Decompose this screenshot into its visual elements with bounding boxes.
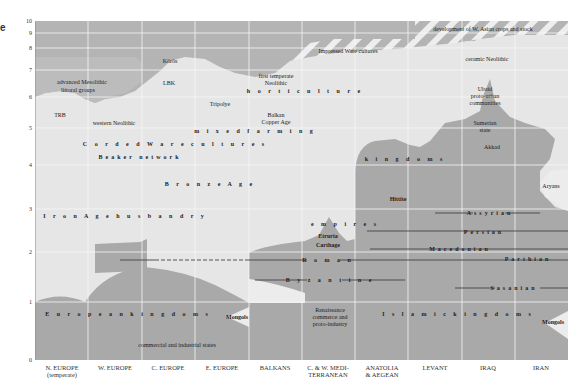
diagram-label: Neolithic: [265, 80, 287, 87]
region-column-label: IRAN: [533, 364, 549, 371]
region-name: N. EUROPE: [45, 364, 78, 371]
diagram-label: state: [480, 127, 491, 134]
region-name: C. EUROPE: [152, 364, 185, 371]
diagram-label: western Neolithic: [93, 120, 136, 127]
y-tick: 3: [22, 206, 32, 212]
diagram-label: Copper Age: [262, 119, 291, 126]
region-column-label: ANATOLIA& AEGEAN: [365, 364, 398, 378]
diagram-label: Hittite: [390, 196, 407, 203]
diagram-label: commerce and: [312, 314, 347, 321]
y-tick: 7: [22, 67, 32, 73]
diagram-label: littoral groups: [61, 87, 95, 94]
diagram-label: Carthage: [316, 242, 340, 249]
y-tick: 2: [22, 249, 32, 255]
diagram-label: communities: [470, 100, 501, 107]
region-name: BALKANS: [260, 364, 291, 371]
region-name: E. EUROPE: [206, 364, 239, 371]
y-tick: 5: [22, 125, 32, 131]
region-name: LEVANT: [422, 364, 447, 371]
diagram-label: advanced Mesolithic: [57, 79, 107, 86]
diagram-label: I r o n A g e h u s b a n d r y: [43, 213, 207, 220]
region-name: IRAN: [533, 364, 549, 371]
diagram-label: E u r o p e a n k i n g d o m s: [45, 311, 211, 318]
diagram-label: Macedonian: [429, 246, 491, 253]
diagram-label: first temperate: [259, 73, 294, 80]
region-column-label: C. & W. MEDI-TERRANEAN: [307, 364, 349, 378]
diagram-label: R o m a n: [302, 257, 354, 264]
diagram-label: proto-urban: [471, 93, 499, 100]
region-column-label: W. EUROPE: [98, 364, 132, 371]
y-tick: 8: [22, 45, 32, 51]
diagram-label: Assyrian: [467, 210, 514, 217]
diagram-label: development of W. Asian crops and stock: [433, 26, 532, 33]
diagram-label: Beaker network: [98, 154, 181, 161]
region-column-label: IRAQ: [480, 364, 496, 371]
diagram-label: TRB: [54, 112, 66, 119]
diagram-label: B y z a n t i n e: [286, 277, 375, 284]
diagram-label: Renaissance: [315, 307, 345, 314]
diagram-label: commercial and industrial states: [138, 342, 215, 349]
region-subname: & AEGEAN: [365, 371, 398, 378]
y-tick: 4: [22, 162, 32, 168]
y-tick: 1: [22, 299, 32, 305]
diagram-label: LBK: [163, 80, 175, 87]
region-column-label: C. EUROPE: [152, 364, 185, 371]
region-subname: TERRANEAN: [307, 371, 349, 378]
diagram-label: Impressed Ware cultures: [318, 48, 377, 55]
region-name: W. EUROPE: [98, 364, 132, 371]
diagram-label: k i n g d o m s: [365, 156, 446, 163]
diagram-label: Aryans: [542, 183, 559, 190]
chronology-diagram: [35, 21, 568, 360]
diagram-label: Akkad: [484, 144, 500, 151]
figure-letter: e: [0, 22, 6, 33]
y-tick: 6: [22, 94, 32, 100]
diagram-label: Mongols: [542, 319, 564, 326]
region-column-label: LEVANT: [422, 364, 447, 371]
diagram-label: Körös: [163, 58, 178, 65]
diagram-label: B r o n z e A g e: [165, 181, 256, 188]
diagram-label: h o r t i c u l t u r e: [247, 88, 363, 95]
region-column-label: BALKANS: [260, 364, 291, 371]
region-column-label: E. EUROPE: [206, 364, 239, 371]
diagram-label: C o r d e d W a r e c u l t u r e s: [83, 141, 267, 148]
y-tick: 9: [22, 30, 32, 36]
diagram-label: Etruria: [318, 233, 337, 240]
diagram-label: ceramic Neolithic: [466, 56, 509, 63]
y-tick: 10: [22, 18, 32, 24]
diagram-label: e m p i r e s: [311, 221, 379, 228]
w-europe-roman-box: [95, 239, 147, 273]
diagram-label: m i x e d f a r m i n g: [194, 128, 316, 135]
diagram-label: Parthian: [505, 256, 552, 263]
region-name: C. & W. MEDI-: [307, 364, 349, 371]
diagram-label: Balkan: [268, 112, 285, 119]
region-name: ANATOLIA: [365, 364, 398, 371]
region-name: IRAQ: [480, 364, 496, 371]
diagram-label: Persian: [464, 229, 504, 236]
diagram-label: Ubaid: [478, 86, 493, 93]
region-column-label: N. EUROPE(temperate): [45, 364, 78, 378]
diagram-label: Mongols: [226, 314, 248, 321]
diagram-label: Sasanian: [490, 285, 537, 292]
y-tick: 0: [22, 357, 32, 363]
region-subname: (temperate): [45, 371, 78, 378]
diagram-label: I s l a m i c k i n g d o m s: [382, 311, 534, 318]
diagram-label: Sumerian: [474, 120, 497, 127]
diagram-label: proto-industry: [313, 321, 347, 328]
diagram-label: Tripolye: [210, 101, 230, 108]
